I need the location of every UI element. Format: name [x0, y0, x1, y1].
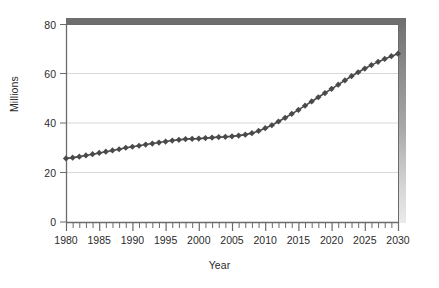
x-tick-label: 1980 [54, 234, 78, 246]
x-tick-label: 1990 [121, 234, 145, 246]
x-axis-ticks [67, 222, 399, 231]
y-tick-label: 40 [44, 117, 56, 129]
x-tick-label: 1985 [88, 234, 112, 246]
x-tick-label: 2015 [287, 234, 311, 246]
y-tick-label: 80 [44, 19, 56, 31]
y-tick-label: 0 [50, 216, 56, 228]
x-tick-label: 2010 [254, 234, 278, 246]
x-tick-label: 2000 [187, 234, 211, 246]
x-tick-label: 2020 [320, 234, 344, 246]
y-tick-label: 20 [44, 167, 56, 179]
x-tick-label: 2030 [386, 234, 410, 246]
y-axis-ticks [60, 25, 66, 223]
y-axis-tick-labels: 80 60 40 20 0 [44, 19, 56, 229]
chart-container: Millions Year [0, 0, 439, 288]
y-tick-label: 60 [44, 68, 56, 80]
x-tick-label: 1995 [154, 234, 178, 246]
x-tick-label: 2025 [353, 234, 377, 246]
chart-plot: 80 60 40 20 0 19801985199019952000200520… [0, 0, 439, 288]
x-tick-label: 2005 [220, 234, 244, 246]
x-axis-tick-labels: 1980198519901995200020052010201520202025… [54, 234, 410, 246]
